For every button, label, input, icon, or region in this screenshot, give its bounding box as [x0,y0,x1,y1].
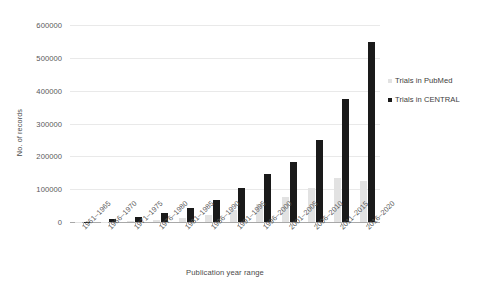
bar-group [354,25,380,222]
bar-group [225,25,251,222]
bar-group [122,25,148,222]
bar-central [290,162,297,222]
y-tick-label: 400000 [36,86,62,95]
bar-central [316,140,323,222]
bar-group [147,25,173,222]
bar-pubmed [205,215,212,222]
y-tick-label: 100000 [36,185,62,194]
x-axis-title: Publication year range [70,268,380,277]
legend-label: Trials in CENTRAL [395,95,460,104]
legend-entry: Trials in CENTRAL [388,95,494,104]
bar-central [368,42,375,222]
bar-group [251,25,277,222]
bar-pubmed [127,221,134,222]
y-tick-label: 0 [58,218,62,227]
bar-chart-figure: No. of records 0100000200000300000400000… [0,0,496,294]
y-tick-label: 500000 [36,53,62,62]
bar-group [302,25,328,222]
y-axis-tick-labels: 0100000200000300000400000500000600000 [0,0,66,294]
bar-groups [70,25,380,222]
legend-label: Trials in PubMed [395,76,453,85]
y-tick-label: 200000 [36,152,62,161]
chart-legend: Trials in PubMedTrials in CENTRAL [388,76,494,114]
bar-group [70,25,96,222]
x-axis-tick-labels: 1961–19651966–19701971–19751976–19801981… [70,225,380,270]
legend-swatch-pubmed [388,79,392,83]
y-tick-label: 600000 [36,21,62,30]
bar-group [173,25,199,222]
bar-group [96,25,122,222]
bar-group [199,25,225,222]
bar-group [277,25,303,222]
plot-area [70,25,380,222]
legend-swatch-central [388,98,392,102]
bar-group [328,25,354,222]
y-tick-label: 300000 [36,119,62,128]
legend-entry: Trials in PubMed [388,76,494,85]
